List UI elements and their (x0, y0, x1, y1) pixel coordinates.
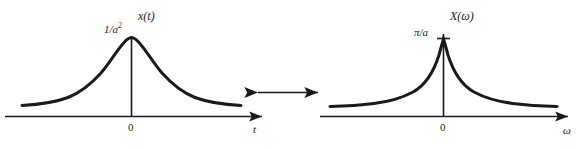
amplitude-numerator: 1/a (104, 23, 118, 35)
figure-graphics (0, 0, 576, 149)
right-plot-function-label: X(ω) (450, 10, 474, 22)
right-plot-group (320, 34, 568, 117)
right-plot-origin-label: 0 (440, 122, 446, 133)
left-plot-group (5, 36, 262, 117)
left-plot-x-axis-label: t (253, 124, 256, 135)
left-plot-origin-label: 0 (128, 122, 134, 133)
right-plot-x-axis-label: ω (563, 125, 571, 136)
left-plot-amplitude-label: 1/a2 (104, 22, 122, 35)
amplitude-exponent: 2 (118, 21, 122, 30)
left-plot-function-label: x(t) (138, 10, 155, 22)
right-plot-amplitude-label: π/a (414, 27, 428, 38)
fourier-transform-pair-figure: x(t) 1/a2 0 t X(ω) π/a 0 ω (0, 0, 576, 149)
